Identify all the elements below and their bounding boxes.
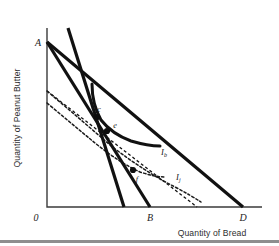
label-point-e: e (113, 121, 117, 130)
point-c-dot (94, 114, 100, 120)
bottom-rule-divider (0, 240, 279, 243)
point-f-dot (130, 167, 136, 173)
x-axis-label: Quantity of Bread (178, 228, 247, 238)
label-point-c: c (97, 105, 101, 114)
label-origin: 0 (34, 212, 39, 223)
label-B: B (147, 212, 153, 223)
axis-lines (47, 28, 262, 207)
indifference-curve-j (47, 103, 165, 177)
label-curve-b: Ib (160, 147, 167, 158)
label-point-f: f (136, 175, 140, 184)
y-axis-label: Quantity of Peanut Butter (12, 68, 22, 167)
label-curve-j: Ij (175, 172, 181, 183)
budget-line-AD (47, 42, 243, 207)
indifference-curve-figure: A 0 B D c e f Ib Ij Quantity of Peanut B… (0, 0, 279, 246)
plot-canvas: A 0 B D c e f Ib Ij Quantity of Peanut B… (0, 0, 279, 246)
label-D: D (238, 212, 247, 223)
point-e-dot (104, 128, 110, 134)
label-A: A (34, 37, 42, 48)
